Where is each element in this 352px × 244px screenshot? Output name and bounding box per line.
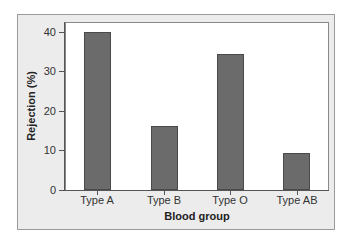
y-tick-label: 0: [26, 184, 56, 196]
y-tick: [59, 32, 65, 33]
y-tick-label: 20: [26, 105, 56, 117]
bar-type-b: [151, 126, 178, 190]
x-tick-label: Type O: [195, 194, 265, 206]
bar-type-ab: [283, 153, 310, 190]
y-axis: [64, 22, 65, 191]
y-tick-label: 40: [26, 26, 56, 38]
y-tick-label: 30: [26, 65, 56, 77]
x-axis-label: Blood group: [65, 210, 329, 222]
bar-type-a: [84, 32, 111, 190]
y-tick-label: 10: [26, 144, 56, 156]
x-axis: [60, 190, 329, 191]
x-tick-label: Type AB: [262, 194, 332, 206]
bar-type-o: [217, 54, 244, 190]
x-tick-label: Type A: [62, 194, 132, 206]
y-tick: [59, 71, 65, 72]
x-tick-label: Type B: [129, 194, 199, 206]
y-tick: [59, 150, 65, 151]
y-tick: [59, 190, 65, 191]
y-tick: [59, 111, 65, 112]
